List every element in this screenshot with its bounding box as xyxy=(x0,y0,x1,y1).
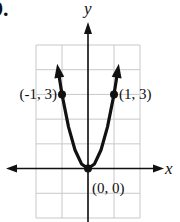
point-label: (0, 0) xyxy=(92,180,125,197)
points: (-1, 3)(1, 3)(0, 0) xyxy=(20,86,152,196)
y-axis-label: y xyxy=(82,0,92,18)
problem-number: 9. xyxy=(0,0,9,21)
x-axis-label: x xyxy=(164,159,173,178)
point-marker xyxy=(58,90,66,98)
point-label: (1, 3) xyxy=(119,86,152,103)
point-marker xyxy=(84,165,92,173)
parabola-graph: (-1, 3)(1, 3)(0, 0) 9. y x xyxy=(0,0,180,222)
curve-right-arrow xyxy=(112,64,122,79)
x-axis-left-arrow xyxy=(6,165,17,173)
x-axis-right-arrow xyxy=(153,165,164,173)
y-axis-up-arrow xyxy=(84,22,92,34)
point-marker xyxy=(110,90,118,98)
curve-left-arrow xyxy=(54,64,64,79)
point-label: (-1, 3) xyxy=(20,86,58,103)
